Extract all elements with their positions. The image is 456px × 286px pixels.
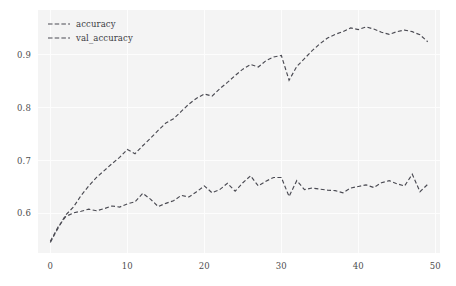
legend-item-accuracy: accuracy <box>48 17 133 30</box>
series-lines <box>50 27 427 243</box>
y-tick-label: 0.7 <box>0 156 31 166</box>
y-tick-label: 0.8 <box>0 103 31 113</box>
x-tick-label: 10 <box>122 261 133 271</box>
x-tick-label: 0 <box>48 261 54 271</box>
x-tick-label: 30 <box>276 261 287 271</box>
y-tick-label: 0.9 <box>0 50 31 60</box>
x-tick-label: 20 <box>199 261 210 271</box>
x-tick-label: 50 <box>430 261 441 271</box>
legend-item-val-accuracy: val_accuracy <box>48 31 133 44</box>
legend-line-sample-icon <box>48 34 70 42</box>
x-tick-label: 40 <box>353 261 364 271</box>
series-line-val-accuracy <box>50 174 427 241</box>
series-line-accuracy <box>50 27 427 243</box>
matplotlib-figure: 0.60.70.80.9 01020304050 accuracy val_ac… <box>0 0 456 286</box>
legend-line-sample-icon <box>48 20 70 28</box>
y-tick-label: 0.6 <box>0 208 31 218</box>
legend-label-accuracy: accuracy <box>76 19 116 29</box>
chart-legend: accuracy val_accuracy <box>44 15 137 47</box>
legend-label-val-accuracy: val_accuracy <box>76 33 133 43</box>
